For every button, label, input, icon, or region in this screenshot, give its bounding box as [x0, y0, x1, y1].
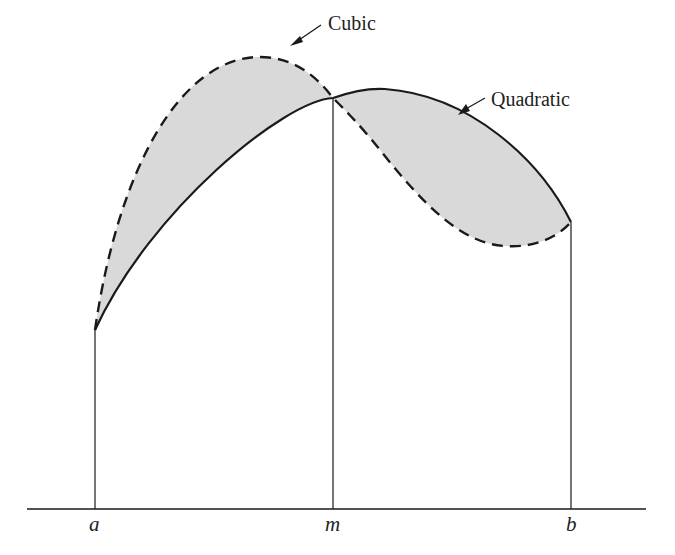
quadratic-label: Quadratic	[491, 88, 570, 110]
cubic-arrow-icon	[290, 25, 321, 46]
tick-label-b: b	[566, 512, 577, 536]
quadratic-arrow-icon	[458, 98, 485, 115]
shaded-region-left	[95, 57, 333, 330]
tick-label-m: m	[325, 512, 340, 536]
cubic-label: Cubic	[328, 12, 376, 34]
diagram-canvas: Cubic Quadratic a m b	[0, 0, 675, 555]
tick-label-a: a	[89, 512, 100, 536]
